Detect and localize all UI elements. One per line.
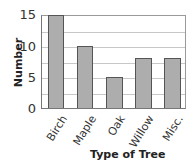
bar-willow	[135, 58, 152, 108]
x-tick-birch: Birch	[44, 113, 70, 144]
y-axis-title: Number	[12, 33, 25, 93]
y-tick-15: 15	[19, 8, 36, 21]
x-axis-title: Type of Tree	[0, 148, 193, 161]
x-tick-maple: Maple	[70, 113, 99, 148]
y-tick-5: 5	[28, 71, 36, 84]
y-tick-0: 0	[28, 102, 36, 115]
x-tick-misc: Misc.	[160, 113, 186, 143]
bar-oak	[106, 77, 123, 108]
bar-birch	[48, 15, 64, 108]
bar-misc	[164, 58, 181, 108]
bar-maple	[77, 46, 93, 108]
plot-area	[41, 15, 186, 109]
x-tick-oak: Oak	[105, 113, 128, 138]
x-tick-willow: Willow	[127, 113, 157, 150]
